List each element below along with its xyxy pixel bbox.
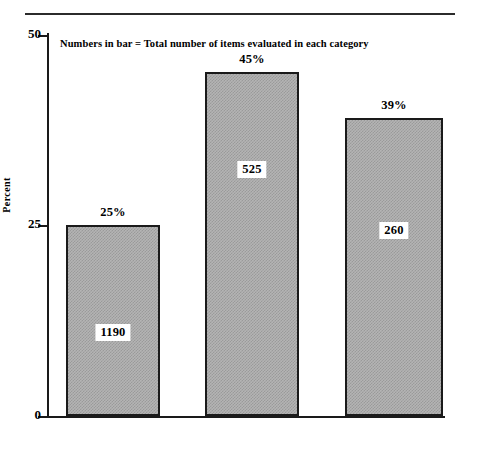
plot-area: 0 25 50 Numbers in bar = Total number of…	[47, 33, 445, 418]
y-tick-label-50: 50	[28, 26, 41, 42]
y-axis-title: Percent	[1, 177, 12, 212]
bar-count-label-manuf-rep: 525	[237, 161, 266, 178]
bar-broker[interactable]	[66, 225, 160, 416]
bar-manuf-rep[interactable]	[205, 72, 299, 416]
bar-both[interactable]	[345, 118, 443, 416]
bar-percent-label-manuf-rep: 45%	[205, 52, 299, 67]
bar-group-broker: 25% 1190 Broker	[66, 225, 160, 416]
bar-count-label-both: 260	[379, 222, 408, 239]
cropped-header-text	[60, 0, 420, 5]
header-divider	[25, 13, 455, 15]
bar-group-both: 39% 260 Both	[345, 118, 443, 416]
bar-group-manuf-rep: 45% 525 Manuf. Rep.	[205, 72, 299, 416]
bar-count-label-broker: 1190	[95, 324, 130, 341]
chart-annotation-note: Numbers in bar = Total number of items e…	[60, 38, 369, 49]
chart-figure: 0 25 50 Numbers in bar = Total number of…	[0, 0, 480, 460]
y-tick-label-0: 0	[35, 407, 42, 423]
x-axis-line	[47, 416, 445, 418]
y-tick-label-25: 25	[28, 216, 41, 232]
bar-percent-label-both: 39%	[345, 98, 443, 113]
bar-percent-label-broker: 25%	[66, 205, 160, 220]
